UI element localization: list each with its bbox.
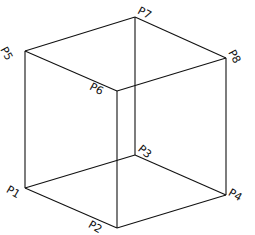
edge-p1-p2 [25, 188, 117, 228]
edge-p2-p4 [117, 195, 226, 228]
edge-p3-p4 [135, 155, 226, 195]
edge-p7-p8 [135, 17, 226, 58]
cube-wireframe [0, 0, 255, 235]
edge-p6-p8 [117, 58, 226, 91]
edge-p5-p7 [25, 17, 135, 51]
edge-p1-p3 [25, 155, 135, 188]
